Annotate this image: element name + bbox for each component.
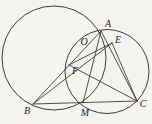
segment-E-C [112,43,137,101]
segment-B-C [33,101,137,104]
point-label-E: E [114,34,121,45]
segment-F-C [69,65,137,101]
segment-B-A [33,31,101,104]
large-circle [2,6,106,110]
diagram-canvas: ABCEFMO [0,0,152,124]
geometry-figure: ABCEFMO [0,0,152,124]
point-label-C: C [140,98,147,109]
circles-layer [2,6,149,114]
point-label-B: B [24,105,30,116]
point-label-O: O [80,36,87,47]
point-label-M: M [80,107,90,118]
point-label-A: A [104,18,112,29]
point-label-F: F [71,65,79,76]
